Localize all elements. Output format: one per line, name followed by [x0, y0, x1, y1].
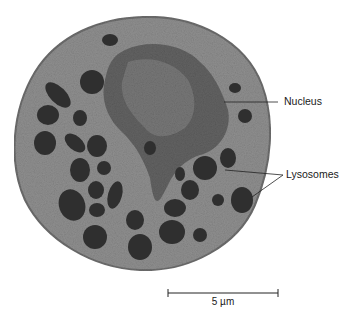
cell-micrograph	[0, 0, 350, 313]
scale-bar-label: 5 µm	[212, 296, 234, 307]
lysosomes-label: Lysosomes	[286, 168, 339, 180]
nucleus-label: Nucleus	[284, 95, 322, 107]
micrograph-figure: Nucleus Lysosomes 5 µm	[0, 0, 350, 313]
